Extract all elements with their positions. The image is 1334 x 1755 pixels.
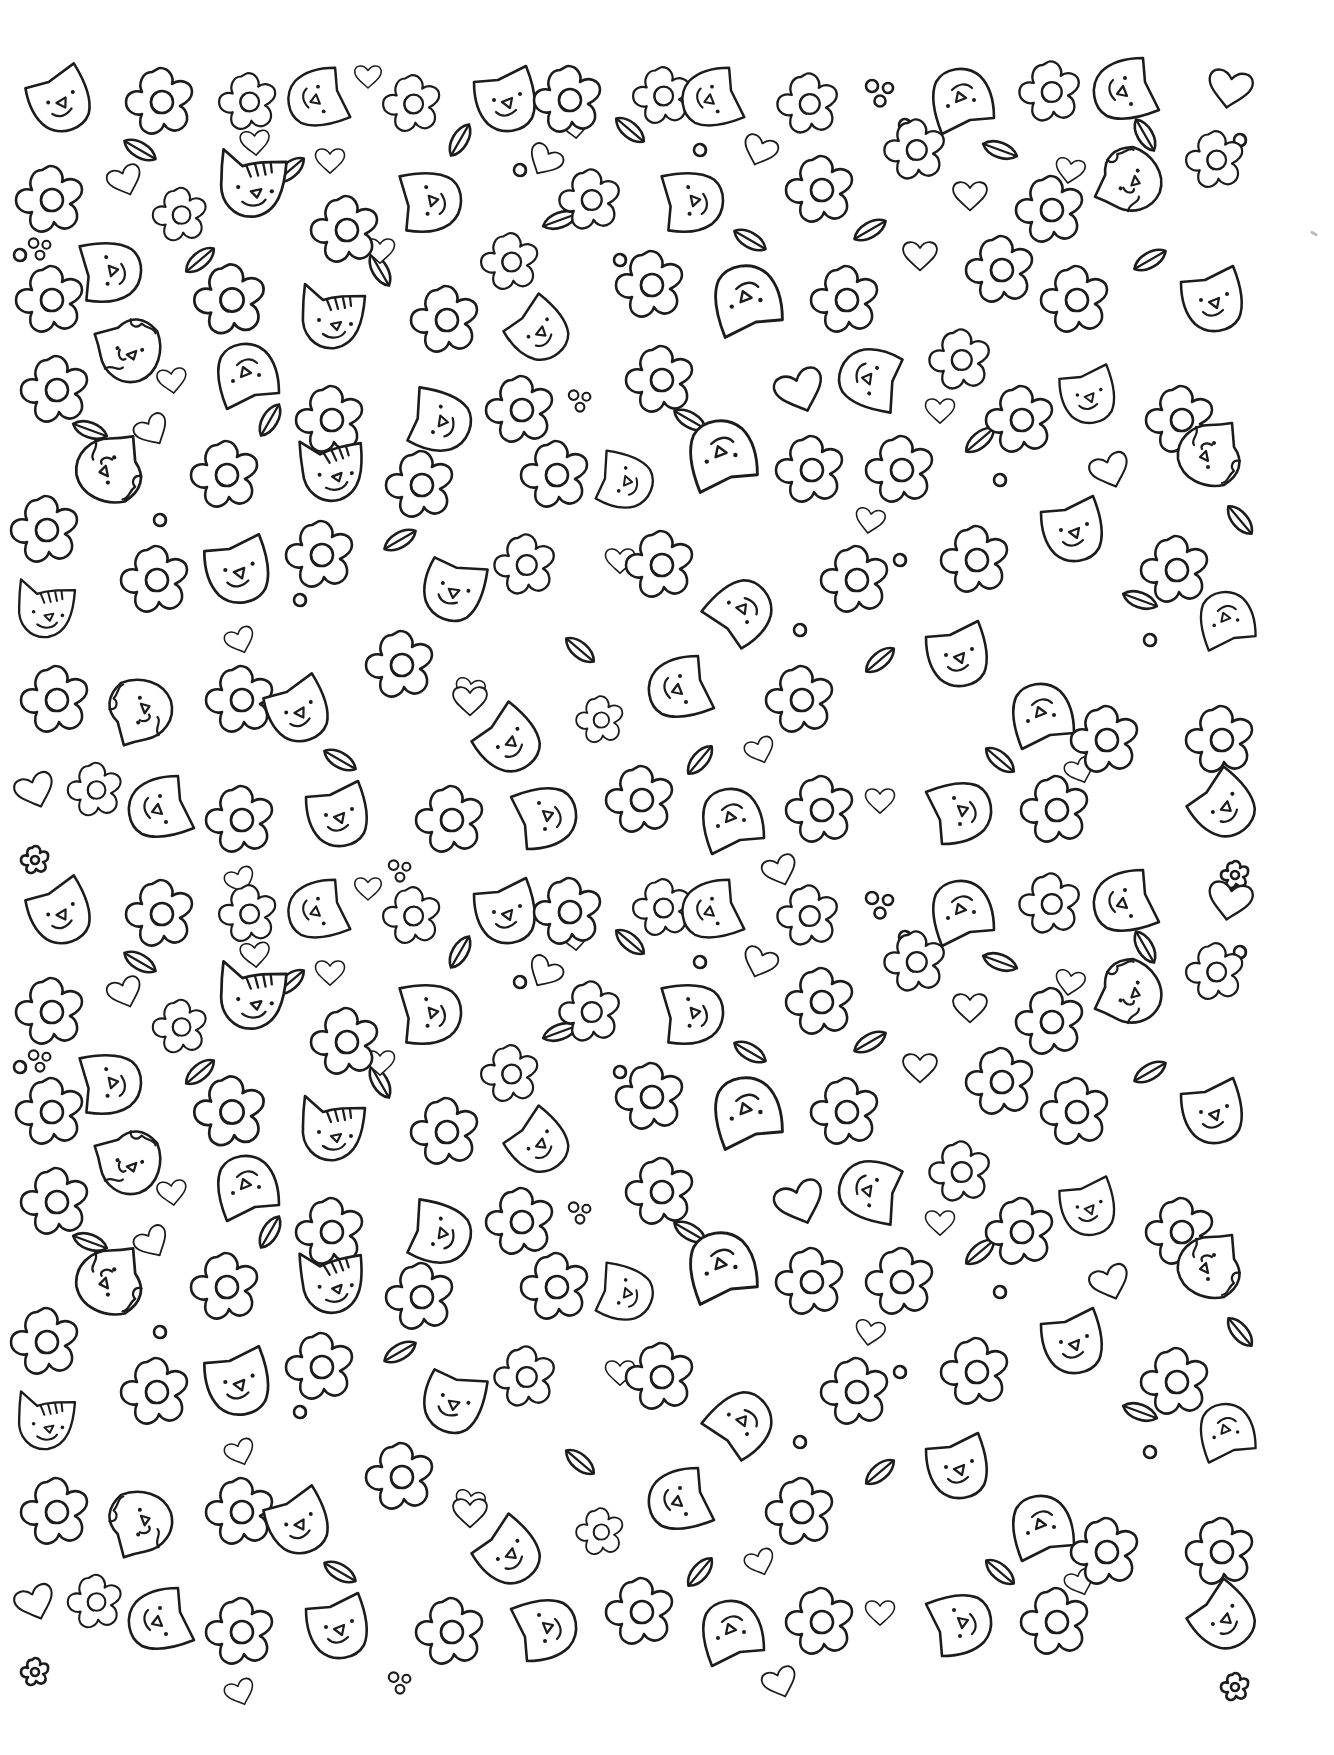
heart-icon xyxy=(12,770,59,813)
flower-icon xyxy=(786,776,852,842)
flower-icon xyxy=(21,1478,87,1544)
leaf-icon xyxy=(731,1037,770,1068)
cat-head-icon xyxy=(830,1147,917,1232)
dot-cluster-icon xyxy=(389,1672,411,1693)
cat-head-icon xyxy=(1201,1404,1256,1463)
heart-icon xyxy=(355,66,382,88)
flower-icon xyxy=(386,451,452,517)
dot-cluster-icon xyxy=(866,892,893,919)
dot-cluster-icon xyxy=(569,390,591,411)
flower-icon xyxy=(1021,776,1087,842)
flower-icon xyxy=(481,1045,537,1101)
cat-head-icon xyxy=(394,1192,481,1277)
leaf-icon xyxy=(445,121,476,160)
flower-icon xyxy=(219,73,275,129)
cat-head-icon xyxy=(288,68,350,126)
spotted-cat-head-icon xyxy=(1088,138,1173,224)
coloring-page xyxy=(0,0,1334,1755)
heart-icon xyxy=(12,1582,59,1625)
flower-icon xyxy=(929,1141,988,1200)
cat-head-icon xyxy=(933,881,994,946)
flower-icon xyxy=(811,266,877,332)
leaf-icon xyxy=(255,1213,286,1252)
circle-icon xyxy=(1144,1446,1156,1458)
cat-head-icon xyxy=(410,544,495,631)
flower-icon xyxy=(1041,266,1107,332)
heart-icon xyxy=(760,852,801,890)
leaf-icon xyxy=(851,1027,890,1058)
leaf-icon xyxy=(561,1445,598,1480)
flower-icon xyxy=(606,766,672,832)
flower-icon xyxy=(68,763,121,815)
flower-icon xyxy=(11,1308,77,1374)
cat-head-icon xyxy=(410,1356,495,1443)
flower-icon xyxy=(576,1508,622,1554)
cat-head-icon xyxy=(926,621,987,686)
circle-icon xyxy=(694,956,706,968)
heart-icon xyxy=(743,735,779,768)
flower-icon xyxy=(966,1048,1032,1114)
flower-icon xyxy=(633,67,689,123)
dot-cluster-icon xyxy=(866,80,893,107)
flower-icon xyxy=(884,119,943,178)
flower-icon xyxy=(16,266,82,332)
cat-head-icon xyxy=(496,289,577,371)
flower-icon xyxy=(821,1358,887,1424)
flower-icon xyxy=(1019,873,1078,932)
heart-icon xyxy=(240,130,271,157)
flower-icon xyxy=(929,329,988,388)
leaf-icon xyxy=(683,1553,718,1590)
cat-head-icon xyxy=(933,69,994,134)
flower-icon xyxy=(286,521,352,587)
cat-head-icon xyxy=(682,880,744,938)
flower-icon xyxy=(286,1333,352,1399)
flower-icon xyxy=(1016,988,1082,1054)
cat-head-icon xyxy=(218,344,279,409)
cat-head-icon xyxy=(1181,266,1242,331)
circle-icon xyxy=(1144,634,1156,646)
leaf-icon xyxy=(321,1557,360,1588)
cat-head-icon xyxy=(391,168,466,239)
spotted-cat-head-icon xyxy=(76,1248,141,1314)
heart-icon xyxy=(903,1054,937,1082)
flower-icon xyxy=(11,496,77,562)
cat-head-icon xyxy=(583,444,661,521)
dot-cluster-icon xyxy=(569,1202,591,1223)
flower-icon xyxy=(521,441,587,507)
cat-head-icon xyxy=(23,874,94,949)
flower-icon xyxy=(386,1263,452,1329)
flower-icon xyxy=(121,546,187,612)
cat-head-icon xyxy=(394,380,481,465)
flower-icon xyxy=(626,1343,692,1409)
flower-icon xyxy=(986,1198,1052,1264)
cat-head-icon xyxy=(129,776,194,837)
cat-head-icon xyxy=(690,421,757,493)
cat-head-icon xyxy=(715,1078,782,1150)
cat-head-icon xyxy=(1059,1176,1114,1235)
flower-icon xyxy=(383,887,439,943)
leaf-icon xyxy=(255,401,286,440)
flower-icon xyxy=(1186,1518,1252,1584)
flower-icon xyxy=(16,166,82,232)
leaf-icon xyxy=(981,1555,1018,1590)
circle-icon xyxy=(14,1061,26,1073)
heart-icon xyxy=(223,1677,259,1710)
dot-cluster-icon xyxy=(29,238,51,259)
flower-icon xyxy=(126,880,192,946)
flower-icon xyxy=(766,666,832,732)
flower-icon xyxy=(16,1078,82,1144)
heart-icon xyxy=(865,789,894,813)
leaf-icon xyxy=(381,525,420,556)
cat-head-icon xyxy=(1179,1574,1264,1661)
flower-icon xyxy=(1141,536,1207,602)
flower-icon xyxy=(481,233,537,289)
circle-icon xyxy=(794,1436,806,1448)
flower-icon xyxy=(296,1198,362,1264)
flower-icon xyxy=(521,1253,587,1319)
flower-icon xyxy=(941,526,1007,592)
flower-icon xyxy=(534,66,600,132)
flower-icon xyxy=(786,156,852,222)
cat-head-icon xyxy=(682,68,744,126)
flower-icon xyxy=(126,68,192,134)
circle-icon xyxy=(694,144,706,156)
